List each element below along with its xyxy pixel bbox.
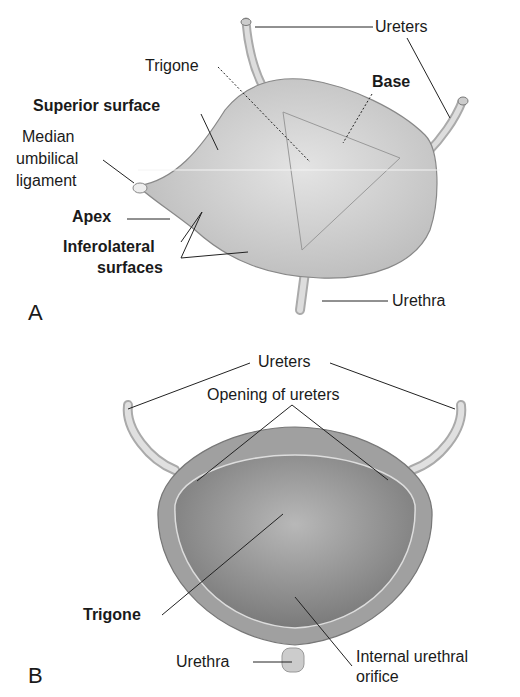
label-b-opening-of-ureters: Opening of ureters <box>207 386 340 404</box>
label-b-ureters: Ureters <box>258 353 310 371</box>
panel-b-letter: B <box>28 663 43 689</box>
label-a-apex: Apex <box>72 208 111 226</box>
label-a-median-umbilical-2: umbilical <box>16 150 78 168</box>
label-a-inferolateral-1: Inferolateral <box>63 238 155 256</box>
label-a-median-umbilical-1: Median <box>22 128 74 146</box>
label-a-median-umbilical-3: ligament <box>16 172 76 190</box>
label-a-trigone: Trigone <box>145 57 199 75</box>
label-a-superior-surface: Superior surface <box>33 97 160 115</box>
panel-b-bladder-interior <box>128 405 461 672</box>
label-b-internal-orifice-1: Internal urethral <box>356 648 468 666</box>
label-a-base: Base <box>372 73 410 91</box>
label-a-urethra: Urethra <box>392 292 445 310</box>
label-b-internal-orifice-2: orifice <box>356 668 399 686</box>
label-a-ureters: Ureters <box>375 18 427 36</box>
panel-a-letter: A <box>28 300 43 326</box>
label-b-trigone: Trigone <box>83 606 141 624</box>
label-b-urethra: Urethra <box>176 653 229 671</box>
label-a-inferolateral-2: surfaces <box>97 259 163 277</box>
